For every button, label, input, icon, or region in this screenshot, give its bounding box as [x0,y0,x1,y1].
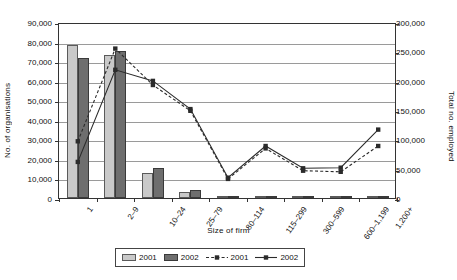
line-marker-2001-0 [76,139,80,143]
y-axis-left-ticks: 010,00020,00030,00040,00050,00060,00070,… [6,0,52,280]
line-series-layer [59,24,397,200]
legend-swatch-dark [164,254,178,261]
x-axis-label-3: 25–79 [205,205,225,228]
line-marker-2002-3 [188,107,192,111]
chart-figure: No. of organisations Total no. employed … [0,0,457,280]
x-tickmark [134,198,135,202]
x-tickmark [284,198,285,202]
line-marker-2002-1 [113,68,117,72]
y-left-tick-label: 80,000 [28,38,52,47]
y-right-tick-label: 50,000 [396,165,420,174]
y-axis-right-ticks: 050,000100,000150,000200,000250,000300,0… [396,0,446,280]
y-right-tick-label: 300,000 [396,19,425,28]
legend-label: 2001 [139,253,157,262]
line-marker-2002-6 [301,166,305,170]
legend-label: 2002 [181,253,199,262]
chart-legend: 2001200220012002 [115,248,305,267]
x-tickmark [172,198,173,202]
x-axis-label-7: 600–1,199 [362,205,391,241]
line-marker-2002-0 [76,160,80,164]
line-marker-2002-4 [226,176,230,180]
line-marker-2001-7 [339,170,343,174]
x-tickmark [359,198,360,202]
x-axis-label-2: 10–24 [167,205,187,228]
x-axis-label-1: 2–9 [126,205,141,221]
line-marker-2002-7 [339,166,343,170]
x-tickmark [59,198,60,202]
legend-line-swatch [206,254,228,261]
y-right-tick-label: 150,000 [396,107,425,116]
plot-area [58,23,396,199]
legend-label: 2001 [231,253,249,262]
line-marker-2002-5 [263,144,267,148]
y-left-tick-label: 40,000 [28,116,52,125]
x-tickmark [209,198,210,202]
y-left-tick-label: 50,000 [28,97,52,106]
y-right-tick-label: 100,000 [396,136,425,145]
y-axis-right-title: Total no. employed [445,66,457,186]
y-right-tick-label: 200,000 [396,77,425,86]
x-axis-title: Size of firm [0,226,457,235]
legend-swatch-light [122,254,136,261]
x-tickmark [397,198,398,202]
y-right-tick-label: 250,000 [396,48,425,57]
y-left-tick-label: 60,000 [28,77,52,86]
legend-label: 2002 [280,253,298,262]
legend-line-swatch [255,254,277,261]
x-axis-label-0: 1 [85,205,95,214]
y-left-tick-label: 70,000 [28,58,52,67]
x-tickmark [97,198,98,202]
line-marker-2001-8 [376,144,380,148]
legend-item-3: 2002 [255,253,298,262]
y-left-tick-label: 0 [48,195,52,204]
line-marker-2002-8 [376,127,380,131]
line-marker-2002-2 [151,79,155,83]
line-2002 [78,70,378,178]
y-left-tick-label: 20,000 [28,155,52,164]
x-tickmark [247,198,248,202]
y-left-tick-label: 10,000 [28,175,52,184]
line-marker-2001-1 [113,46,117,50]
x-tickmark [322,198,323,202]
legend-item-2: 2001 [206,253,249,262]
line-2001 [78,49,378,179]
line-marker-2001-2 [151,83,155,87]
y-left-tick-label: 90,000 [28,19,52,28]
legend-item-1: 2002 [164,253,199,262]
y-left-tick-label: 30,000 [28,136,52,145]
legend-item-0: 2001 [122,253,157,262]
